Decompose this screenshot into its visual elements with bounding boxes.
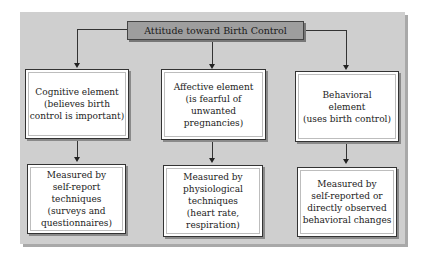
behavioral-element-text: Behavioral element (uses birth control): [303, 89, 391, 125]
arrow-down-icon: [74, 63, 80, 68]
behavioral-element-box: Behavioral element (uses birth control): [295, 71, 399, 142]
connector-middle-vertical: [212, 39, 213, 65]
arrow-down-icon: [343, 159, 349, 164]
attitude-title: Attitude toward Birth Control: [144, 25, 287, 36]
cognitive-measure-box: Measured by self-report techniques (surv…: [27, 164, 126, 234]
connector-left-horizontal: [77, 29, 127, 30]
arrow-down-icon: [74, 157, 80, 162]
affective-measure-box: Measured by physiological techniques (he…: [163, 165, 263, 237]
connector-behavioral-measure: [346, 142, 347, 160]
arrow-down-icon: [209, 158, 215, 163]
connector-left-vertical: [77, 29, 78, 64]
arrow-down-icon: [343, 65, 349, 70]
cognitive-element-text: Cognitive element (believes birth contro…: [30, 86, 125, 122]
behavioral-measure-text: Measured by self-reported or directly ob…: [303, 178, 392, 226]
cognitive-measure-text: Measured by self-report techniques (surv…: [41, 169, 112, 229]
connector-affective-measure: [212, 140, 213, 159]
cognitive-element-box: Cognitive element (believes birth contro…: [25, 69, 129, 139]
affective-measure-text: Measured by physiological techniques (he…: [183, 171, 243, 231]
connector-right-vertical: [346, 30, 347, 66]
connector-cognitive-measure: [77, 139, 78, 158]
affective-element-text: Affective element (is fearful of unwante…: [174, 81, 254, 129]
affective-element-box: Affective element (is fearful of unwante…: [161, 69, 266, 140]
connector-right-horizontal: [302, 30, 347, 31]
attitude-title-box: Attitude toward Birth Control: [127, 21, 304, 40]
behavioral-measure-box: Measured by self-reported or directly ob…: [297, 167, 397, 237]
